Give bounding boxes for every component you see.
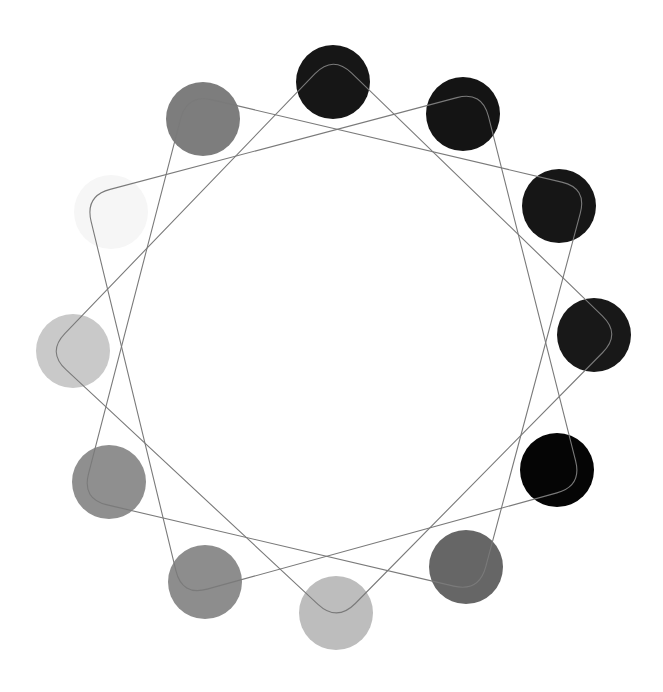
loop-b [90,96,577,590]
rounded-square-loops [56,64,612,613]
circle-1 [426,77,500,151]
circle-10 [74,175,148,249]
circle-8 [72,445,146,519]
star-diagram [0,0,663,692]
circle-ring [36,45,631,650]
loop-c [87,99,582,587]
loop-a [56,64,612,613]
figure-svg [0,0,663,692]
circle-2 [522,169,596,243]
circle-11 [166,82,240,156]
circle-4 [520,433,594,507]
circle-5 [429,530,503,604]
